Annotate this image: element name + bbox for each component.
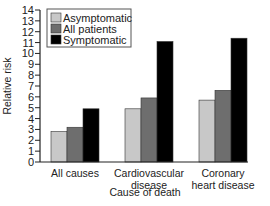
y-tick-label: 2 bbox=[28, 134, 34, 146]
bar-chart: 01234567891011121314 All causesCardiovas… bbox=[0, 0, 270, 206]
x-axis-title: Cause of death bbox=[109, 186, 180, 198]
bars bbox=[51, 38, 247, 162]
bar bbox=[51, 132, 67, 162]
x-tick-label: heart disease bbox=[191, 179, 254, 191]
y-tick-label: 7 bbox=[28, 80, 34, 92]
legend-label: Symptomatic bbox=[63, 34, 127, 46]
y-tick-label: 5 bbox=[28, 102, 34, 114]
y-tick-label: 12 bbox=[22, 26, 34, 38]
y-tick-label: 1 bbox=[28, 145, 34, 157]
bar bbox=[157, 41, 173, 162]
legend-swatch bbox=[51, 35, 61, 44]
y-tick-label: 10 bbox=[22, 47, 34, 59]
x-tick-label: Coronary bbox=[201, 167, 245, 179]
y-tick-label: 11 bbox=[23, 37, 34, 49]
bar bbox=[83, 109, 99, 162]
bar bbox=[141, 98, 157, 162]
y-tick-label: 0 bbox=[28, 156, 34, 168]
x-tick-label: Cardiovascular bbox=[114, 167, 185, 179]
y-tick-label: 8 bbox=[28, 69, 34, 81]
y-tick-label: 13 bbox=[22, 15, 34, 27]
legend-swatch bbox=[51, 24, 61, 33]
y-tick-label: 4 bbox=[28, 113, 34, 125]
bar bbox=[231, 38, 247, 162]
bar bbox=[199, 100, 215, 162]
bar bbox=[125, 109, 141, 162]
x-tick-label: All causes bbox=[51, 167, 99, 179]
y-axis-title: Relative risk bbox=[1, 57, 13, 115]
y-axis: 01234567891011121314 bbox=[22, 4, 40, 168]
y-tick-label: 9 bbox=[28, 58, 34, 70]
y-tick-label: 6 bbox=[28, 91, 34, 103]
bar-group bbox=[125, 41, 173, 162]
bar bbox=[215, 90, 231, 162]
y-tick-label: 3 bbox=[28, 123, 34, 135]
legend: AsymptomaticAll patientsSymptomatic bbox=[47, 9, 133, 47]
bar bbox=[67, 127, 83, 162]
bar-group bbox=[199, 38, 247, 162]
bar-group bbox=[51, 109, 99, 162]
y-tick-label: 14 bbox=[22, 4, 34, 16]
legend-swatch bbox=[51, 13, 61, 22]
